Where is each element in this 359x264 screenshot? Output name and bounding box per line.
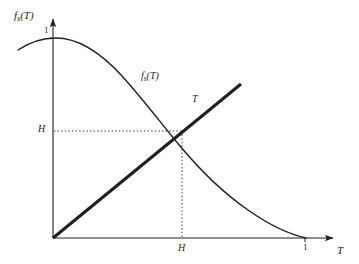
y-axis-label: fs(T) — [14, 10, 34, 23]
curve-label-text: fs(T) — [141, 70, 159, 81]
y-tick-label-h: H — [38, 124, 45, 134]
x-axis-label: T — [337, 245, 343, 256]
curve-label: fs(T) — [141, 71, 159, 83]
x-tick-label-one: 1 — [303, 243, 308, 252]
identity-line-label: T — [192, 94, 198, 104]
curve-fs — [18, 38, 306, 238]
x-tick-label-h: H — [178, 243, 185, 253]
y-axis-label-text: fs(T) — [14, 9, 34, 21]
figure-canvas: fs(T) T fs(T) T 1 H H 1 — [0, 0, 359, 264]
y-tick-label-one: 1 — [44, 26, 49, 35]
line-identity-T — [53, 84, 241, 238]
plot-area — [0, 0, 359, 264]
